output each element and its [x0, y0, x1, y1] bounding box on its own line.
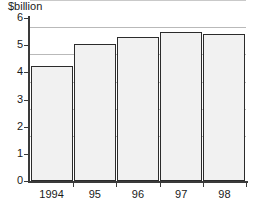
y-tick-label: 2: [0, 121, 23, 132]
x-axis-line: [28, 181, 248, 183]
x-tick-mark: [116, 182, 117, 187]
y-tick-mark: [24, 45, 29, 46]
x-tick-mark: [73, 182, 74, 187]
y-tick-label-text: 3: [1, 94, 23, 105]
bar: [203, 34, 245, 181]
y-tick-label-text: 0: [1, 175, 23, 186]
x-tick-mark: [160, 182, 161, 187]
y-tick-label: 1: [0, 148, 23, 159]
y-tick-mark: [24, 100, 29, 101]
y-tick-label: 6: [0, 12, 23, 23]
y-tick-mark: [24, 72, 29, 73]
y-tick-label-text: 1: [1, 148, 23, 159]
bar: [31, 66, 73, 181]
plot-area: [30, 18, 246, 181]
bar-chart: $billion 0123456 199495969798: [0, 0, 257, 201]
y-tick-label: 4: [0, 66, 23, 77]
x-tick-mark: [203, 182, 204, 187]
y-tick-label: 0: [0, 175, 23, 186]
gridline: [30, 0, 246, 1]
x-tick-label: 1994: [30, 188, 73, 200]
x-tick-label: 96: [116, 188, 159, 200]
y-tick-label-text: 5: [1, 39, 23, 50]
y-tick-label-text: 6: [1, 12, 23, 23]
bar: [160, 32, 202, 181]
y-tick-mark: [24, 127, 29, 128]
x-tick-label: 98: [203, 188, 246, 200]
x-tick-label: 95: [73, 188, 116, 200]
y-tick-mark: [24, 154, 29, 155]
bar: [117, 37, 159, 181]
y-tick-label-text: 4: [1, 66, 23, 77]
y-tick-label: 5: [0, 39, 23, 50]
y-tick-label-text: 2: [1, 121, 23, 132]
x-tick-label: 97: [160, 188, 203, 200]
y-tick-mark: [24, 18, 29, 19]
x-tick-mark: [246, 182, 247, 187]
bar: [74, 44, 116, 181]
y-tick-label: 3: [0, 94, 23, 105]
y-tick-mark: [24, 181, 29, 182]
